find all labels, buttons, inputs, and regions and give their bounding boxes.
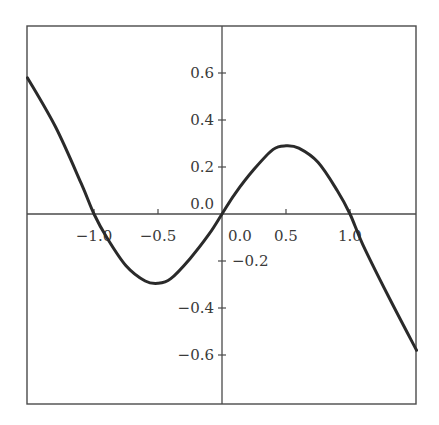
- x-tick-label: 0.5: [274, 227, 298, 245]
- y-tick-label: 0.4: [190, 111, 214, 129]
- y-tick-label: −0.6: [178, 346, 214, 364]
- line-chart: −1.0−0.50.00.51.0 0.60.40.20.0−0.2−0.4−0…: [0, 0, 439, 425]
- y-tick-label: 0.0: [190, 195, 214, 213]
- y-tick-label: 0.2: [190, 158, 214, 176]
- x-tick-label: 0.0: [228, 227, 252, 245]
- y-tick-label: −0.2: [232, 252, 268, 270]
- y-tick-label: −0.4: [178, 299, 214, 317]
- x-tick-label: −0.5: [140, 227, 176, 245]
- y-tick-label: 0.6: [190, 64, 214, 82]
